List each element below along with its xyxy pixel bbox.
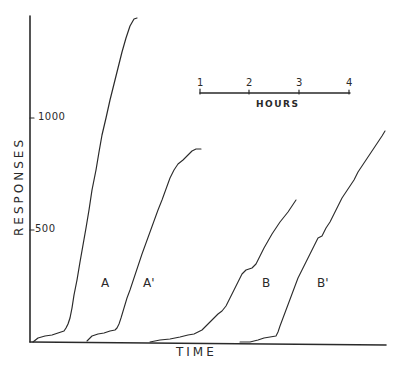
curve-b <box>150 200 296 342</box>
y-axis-title: RESPONSES <box>12 137 26 236</box>
curve-a <box>33 18 137 342</box>
scale-label-2: 2 <box>246 77 252 88</box>
cumulative-response-chart <box>0 0 402 369</box>
scale-label-1: 1 <box>197 77 203 88</box>
scale-label-3: 3 <box>296 77 302 88</box>
curve-label-a-prime: A' <box>143 276 155 290</box>
curve-label-b-prime: B' <box>317 276 329 290</box>
curve-label-a: A <box>101 276 109 290</box>
y-tick-label-500: 500 <box>35 223 56 234</box>
scale-title: HOURS <box>256 99 299 109</box>
curve-b-prime <box>240 131 385 342</box>
curve-a-prime <box>87 149 201 341</box>
scale-label-4: 4 <box>346 77 352 88</box>
curve-label-b: B <box>262 276 270 290</box>
x-axis-title: TIME <box>176 345 217 359</box>
y-tick-label-1000: 1000 <box>38 111 65 122</box>
